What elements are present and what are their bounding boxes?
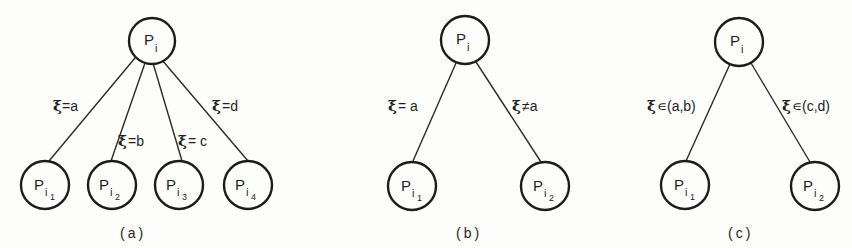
edge-b-1 bbox=[413, 63, 456, 161]
svg-text:i: i bbox=[246, 186, 248, 198]
svg-text:P: P bbox=[533, 177, 543, 194]
svg-text:P: P bbox=[401, 177, 411, 194]
edge-label-a-4: ξ =d bbox=[212, 97, 238, 115]
edge-label-a-1: ξ =a bbox=[53, 97, 78, 115]
node-child-a-3: P i 3 bbox=[155, 161, 203, 209]
edge-label-a-2: ξ =b bbox=[118, 132, 144, 150]
svg-text:i: i bbox=[467, 41, 469, 53]
svg-text:P: P bbox=[235, 176, 245, 193]
svg-text:ξ: ξ bbox=[512, 97, 521, 115]
svg-text:i: i bbox=[544, 187, 546, 199]
panel-a: P i P i 1 P i 2 P i 3 P i 4 ξ bbox=[21, 18, 272, 241]
svg-text:2: 2 bbox=[819, 193, 824, 203]
node-root-b: P i bbox=[441, 16, 489, 64]
svg-text:= c: = c bbox=[188, 133, 207, 149]
svg-text:i: i bbox=[177, 186, 179, 198]
svg-text:i: i bbox=[685, 186, 687, 198]
svg-text:4: 4 bbox=[251, 192, 256, 202]
node-child-c-1: P i 1 bbox=[661, 161, 709, 209]
svg-text:ξ: ξ bbox=[178, 132, 187, 150]
edge-label-a-3: ξ = c bbox=[178, 132, 207, 150]
svg-text:P: P bbox=[166, 176, 176, 193]
edge-label-b-1: ξ = a bbox=[388, 97, 418, 115]
svg-text:=b: =b bbox=[128, 133, 144, 149]
svg-text:P: P bbox=[803, 177, 813, 194]
svg-text:ξ: ξ bbox=[53, 97, 62, 115]
svg-text:2: 2 bbox=[549, 193, 554, 203]
svg-text:i: i bbox=[412, 187, 414, 199]
node-child-a-4: P i 4 bbox=[224, 161, 272, 209]
svg-text:∊(c,d): ∊(c,d) bbox=[792, 98, 830, 114]
svg-text:P: P bbox=[34, 176, 44, 193]
svg-text:i: i bbox=[155, 42, 157, 54]
svg-text:P: P bbox=[144, 31, 154, 48]
svg-text:=a: =a bbox=[62, 98, 78, 114]
svg-text:1: 1 bbox=[50, 192, 55, 202]
svg-text:P: P bbox=[99, 176, 109, 193]
svg-text:1: 1 bbox=[690, 192, 695, 202]
node-child-a-2: P i 2 bbox=[88, 161, 136, 209]
panel-b: P i P i 1 P i 2 ξ = a ξ ≠a (b) bbox=[388, 16, 569, 241]
node-root-a: P i bbox=[129, 18, 175, 64]
node-child-a-1: P i 1 bbox=[21, 161, 69, 209]
svg-text:=d: =d bbox=[222, 98, 238, 114]
svg-text:ξ: ξ bbox=[388, 97, 397, 115]
svg-text:ξ: ξ bbox=[212, 97, 221, 115]
svg-text:2: 2 bbox=[115, 192, 120, 202]
svg-text:P: P bbox=[456, 30, 466, 47]
svg-text:1: 1 bbox=[417, 193, 422, 203]
node-root-c: P i bbox=[715, 18, 763, 66]
svg-text:ξ: ξ bbox=[118, 132, 127, 150]
caption-a: (a) bbox=[120, 225, 146, 241]
node-child-b-1: P i 1 bbox=[388, 162, 436, 210]
svg-text:3: 3 bbox=[182, 192, 187, 202]
svg-text:ξ: ξ bbox=[782, 97, 791, 115]
caption-b: (b) bbox=[456, 225, 482, 241]
svg-text:i: i bbox=[110, 186, 112, 198]
decision-tree-figure: P i P i 1 P i 2 P i 3 P i 4 ξ bbox=[0, 0, 852, 248]
svg-text:∊(a,b): ∊(a,b) bbox=[657, 98, 696, 114]
svg-text:ξ: ξ bbox=[647, 97, 656, 115]
panel-c: P i P i 1 P i 2 ξ ∊(a,b) ξ ∊(c,d) (c) bbox=[647, 18, 839, 241]
caption-c: (c) bbox=[728, 225, 753, 241]
svg-text:P: P bbox=[674, 176, 684, 193]
node-child-b-2: P i 2 bbox=[521, 162, 569, 210]
svg-text:i: i bbox=[814, 187, 816, 199]
edge-label-c-1: ξ ∊(a,b) bbox=[647, 97, 696, 115]
svg-text:= a: = a bbox=[398, 98, 418, 114]
edge-label-c-2: ξ ∊(c,d) bbox=[782, 97, 830, 115]
svg-text:i: i bbox=[45, 186, 47, 198]
svg-text:i: i bbox=[741, 43, 743, 55]
node-child-c-2: P i 2 bbox=[791, 162, 839, 210]
edge-label-b-2: ξ ≠a bbox=[512, 97, 538, 115]
svg-text:P: P bbox=[730, 32, 740, 49]
svg-text:≠a: ≠a bbox=[522, 98, 538, 114]
